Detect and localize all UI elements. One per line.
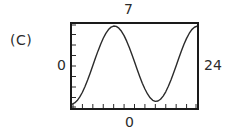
y-axis-ticks [72, 25, 76, 107]
y-axis-max-label: 7 [124, 1, 133, 17]
plot-area [72, 24, 197, 108]
plot-frame [70, 22, 199, 110]
sine-curve-plot [72, 24, 197, 108]
y-axis-min-label: 0 [57, 57, 66, 73]
data-curve [72, 26, 197, 104]
figure-panel: (C) 7 0 24 0 [0, 0, 230, 136]
x-axis-max-label: 24 [204, 57, 222, 73]
x-axis-ticks [73, 104, 196, 108]
x-axis-min-label: 0 [125, 114, 134, 130]
panel-label: (C) [10, 32, 32, 48]
